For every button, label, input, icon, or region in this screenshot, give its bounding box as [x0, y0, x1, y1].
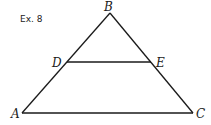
triangle-diagram: Ex. 8 B D E A C [0, 0, 211, 125]
point-label-a: A [10, 107, 20, 121]
point-label-c: C [196, 107, 205, 121]
segment-bc [110, 13, 193, 113]
point-label-d: D [51, 56, 62, 70]
point-label-b: B [103, 0, 113, 14]
exercise-label: Ex. 8 [20, 14, 43, 24]
segment-ab [22, 13, 110, 113]
point-label-e: E [155, 56, 165, 70]
